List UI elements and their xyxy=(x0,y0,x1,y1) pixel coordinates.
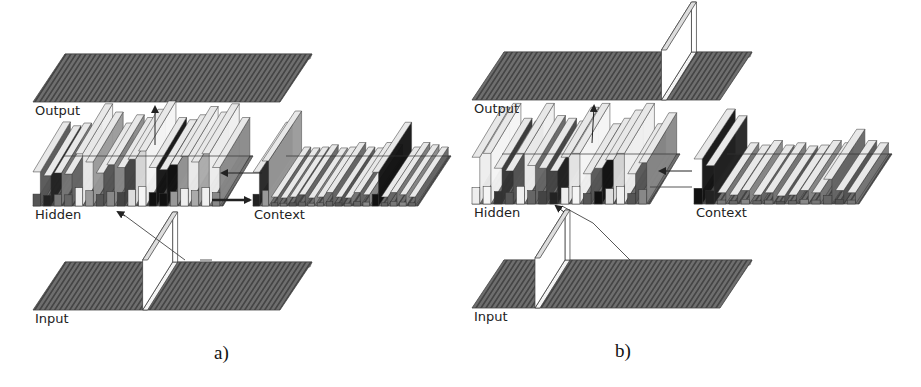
panel-a: Output Hidden Context Input a) xyxy=(0,0,460,387)
input-layer-label: Input xyxy=(35,311,69,326)
panel-a-caption: a) xyxy=(214,342,229,364)
output-layer-label: Output xyxy=(35,103,80,118)
panel-b-diagram xyxy=(460,0,921,387)
hidden-layer-label: Hidden xyxy=(474,205,520,220)
hidden-layer xyxy=(472,103,680,204)
input-layer-label: Input xyxy=(474,309,508,324)
context-layer-label: Context xyxy=(696,205,747,220)
panel-b: Output Hidden Context Input b) xyxy=(460,0,921,387)
input-unit-connector xyxy=(593,223,630,260)
elman-network-figure: Output Hidden Context Input a) Output Hi… xyxy=(0,0,921,387)
hidden-layer-label: Hidden xyxy=(35,207,81,222)
output-layer xyxy=(472,52,752,100)
output-layer xyxy=(33,54,312,102)
context-layer xyxy=(253,111,451,206)
input-layer xyxy=(472,260,752,308)
panel-a-diagram xyxy=(0,0,460,387)
output-layer-label: Output xyxy=(474,101,519,116)
panel-b-caption: b) xyxy=(615,340,631,362)
context-layer-label: Context xyxy=(254,207,305,222)
context-layer xyxy=(694,109,892,204)
